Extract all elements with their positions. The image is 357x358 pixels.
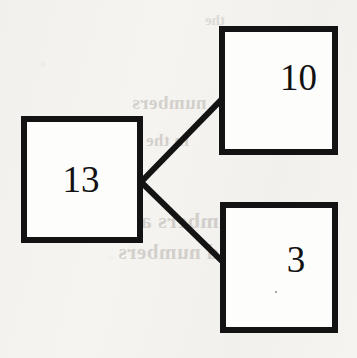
tree-node-value: 13 (63, 161, 100, 198)
ink-speck (275, 291, 277, 293)
tree-node-value: 10 (280, 59, 317, 96)
edge-root-to-lower-child (141, 182, 224, 263)
tree-node-lower-child[interactable]: 3 (220, 202, 338, 333)
tree-node-value: 3 (287, 241, 306, 278)
edge-root-to-upper-child (141, 99, 222, 182)
diagram-canvas: numbers in the numbers are and numbers t… (0, 0, 357, 358)
tree-node-root[interactable]: 13 (21, 116, 143, 243)
tree-node-upper-child[interactable]: 10 (219, 26, 338, 155)
